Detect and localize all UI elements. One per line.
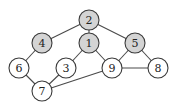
node-label: 8: [155, 62, 162, 75]
node-2: 2: [79, 10, 99, 30]
edges-layer: [19, 20, 158, 91]
node-4: 4: [32, 33, 52, 53]
node-7: 7: [32, 81, 52, 101]
node-label: 5: [132, 37, 139, 50]
node-3: 3: [56, 58, 76, 78]
node-label: 1: [86, 37, 93, 50]
node-9: 9: [102, 58, 122, 78]
edge-7-9: [42, 68, 112, 91]
nodes-layer: 241563987: [9, 10, 168, 101]
node-label: 7: [39, 85, 46, 98]
node-6: 6: [9, 58, 29, 78]
node-5: 5: [125, 33, 145, 53]
graph-diagram: 241563987: [0, 0, 178, 108]
node-label: 3: [63, 62, 70, 75]
node-label: 9: [109, 62, 116, 75]
node-8: 8: [148, 58, 168, 78]
node-label: 6: [16, 62, 23, 75]
node-label: 4: [39, 37, 46, 50]
node-label: 2: [86, 14, 93, 27]
node-1: 1: [79, 33, 99, 53]
